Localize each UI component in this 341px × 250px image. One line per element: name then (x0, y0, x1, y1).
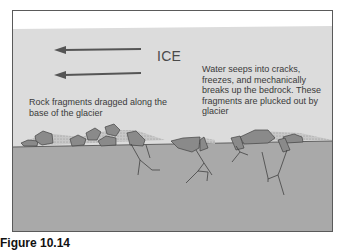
figure-caption: Figure 10.14 (0, 236, 70, 250)
right-annotation: Water seeps into cracks, freezes, and me… (202, 64, 332, 117)
left-annotation: Rock fragments dragged along the base of… (29, 97, 189, 118)
ice-label: ICE (157, 48, 181, 64)
bedrock-region (13, 141, 332, 231)
